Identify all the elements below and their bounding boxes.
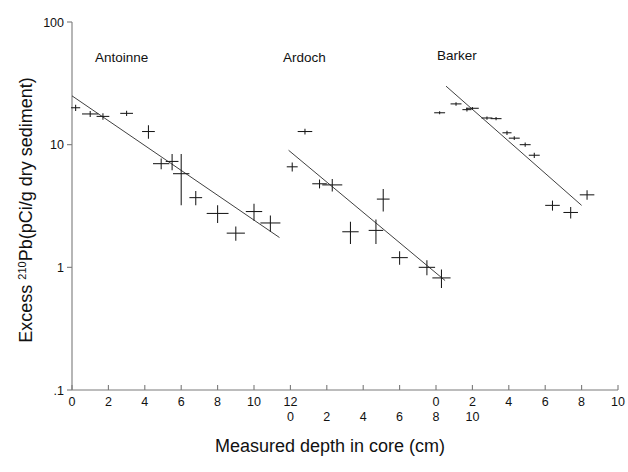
data-point [580, 190, 595, 200]
data-point [451, 102, 462, 105]
x-tick-label-row1-12: 4 [505, 395, 512, 409]
x-tick-label-row2-6: 0 [287, 410, 294, 424]
x-tick-label-row2-10: 8 [433, 410, 440, 424]
data-point [369, 220, 384, 244]
data-point [189, 191, 202, 205]
data-point [207, 205, 229, 223]
y-tick-label-0: 100 [43, 16, 64, 30]
data-point [502, 131, 511, 135]
y-title-rest: Pb(pCi/g dry sediment) [16, 77, 36, 261]
data-point [545, 201, 560, 211]
panel-title-barker: Barker [437, 48, 477, 63]
data-point [563, 207, 578, 218]
x-tick-label-row1-0: 0 [69, 395, 76, 409]
panel-antoinne [71, 96, 280, 241]
chart-svg: 100101.102468101202460821046810 Antoinne… [0, 0, 628, 472]
y-tick-label-3: .1 [54, 384, 64, 398]
x-tick-label-row1-13: 6 [542, 395, 549, 409]
x-tick-label-row1-4: 8 [214, 395, 221, 409]
x-tick-label-row1-14: 8 [578, 395, 585, 409]
data-point [227, 227, 245, 241]
x-tick-label-row1-5: 10 [247, 395, 261, 409]
data-point [391, 251, 407, 264]
fit-line-barker [446, 86, 582, 205]
panel-title-ardoch: Ardoch [283, 50, 326, 65]
x-tick-label-row1-1: 2 [105, 395, 112, 409]
data-point [342, 222, 358, 244]
data-point [520, 143, 531, 147]
axes-layer: 100101.102468101202460821046810 [43, 16, 625, 425]
y-axis-title: Excess 210Pb(pCi/g dry sediment) [16, 77, 36, 342]
x-tick-label-row2-7: 2 [323, 410, 330, 424]
fit-line-ardoch [289, 150, 446, 280]
data-point [246, 204, 262, 221]
x-tick-label-row1-6: 12 [283, 395, 297, 409]
data-point [260, 215, 280, 231]
figure-container: 100101.102468101202460821046810 Antoinne… [0, 0, 628, 472]
data-point [419, 260, 435, 275]
y-title-main: Excess [16, 280, 36, 343]
data-point [377, 189, 390, 212]
x-tick-label-row1-3: 6 [178, 395, 185, 409]
x-tick-label-row1-2: 4 [141, 395, 148, 409]
x-tick-label-row1-15: 10 [611, 395, 625, 409]
x-tick-label-row1-11: 2 [469, 395, 476, 409]
panel-ardoch [287, 129, 451, 288]
x-tick-label-row1-10: 0 [433, 395, 440, 409]
data-layer [71, 86, 594, 288]
x-tick-label-row2-11: 10 [465, 410, 479, 424]
data-point [120, 111, 133, 116]
data-point [142, 125, 155, 138]
data-point [529, 153, 540, 158]
data-point [434, 111, 445, 114]
x-tick-label-row2-9: 6 [396, 410, 403, 424]
data-point [509, 136, 520, 140]
data-point [287, 163, 298, 172]
x-tick-label-row2-8: 4 [360, 410, 367, 424]
panel-title-antoinne: Antoinne [95, 50, 148, 65]
panel-barker [434, 86, 594, 218]
y-tick-label-1: 10 [50, 138, 64, 152]
x-axis-title: Measured depth in core (cm) [215, 436, 445, 456]
data-point [298, 129, 313, 135]
y-title-superscript: 210 [16, 261, 28, 279]
y-tick-label-2: 1 [57, 261, 64, 275]
